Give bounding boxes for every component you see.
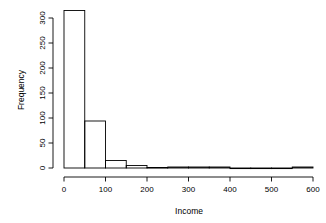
histogram-bar: [230, 168, 251, 169]
histogram-bar: [209, 167, 230, 168]
x-axis-title: Income: [175, 206, 203, 216]
histogram-chart: 050100150200250300 0100200300400500600 I…: [0, 0, 326, 223]
y-axis-tick-label: 50: [38, 138, 47, 147]
x-axis: 0100200300400500600: [62, 177, 320, 194]
y-axis-tick-label: 0: [38, 165, 47, 170]
histogram-bar: [251, 168, 272, 169]
histogram-bar: [85, 121, 106, 168]
x-axis-tick-label: 0: [62, 185, 67, 194]
histogram-bar: [64, 11, 85, 169]
x-axis-tick-label: 300: [182, 185, 196, 194]
histogram-bar: [168, 167, 189, 168]
x-axis-tick-label: 200: [140, 185, 154, 194]
histogram-bar: [147, 168, 168, 169]
histogram-bar: [272, 168, 293, 169]
y-axis-tick-label: 300: [38, 11, 47, 25]
y-axis-tick-label: 250: [38, 36, 47, 50]
y-axis-tick-label: 150: [38, 86, 47, 100]
x-axis-tick-label: 400: [223, 185, 237, 194]
histogram-bar: [189, 167, 210, 168]
histogram-bar: [106, 161, 127, 169]
y-axis-tick-label: 200: [38, 61, 47, 75]
histogram-bar: [126, 166, 147, 169]
y-axis-tick-label: 100: [38, 111, 47, 125]
histogram-bar: [292, 167, 313, 168]
y-axis-title: Frequency: [16, 69, 26, 110]
plot-canvas: 050100150200250300 0100200300400500600 I…: [0, 0, 326, 223]
x-axis-tick-label: 100: [99, 185, 113, 194]
x-axis-tick-label: 600: [306, 185, 320, 194]
y-axis: 050100150200250300: [38, 11, 54, 170]
bars-group: [64, 11, 313, 169]
x-axis-tick-label: 500: [265, 185, 279, 194]
